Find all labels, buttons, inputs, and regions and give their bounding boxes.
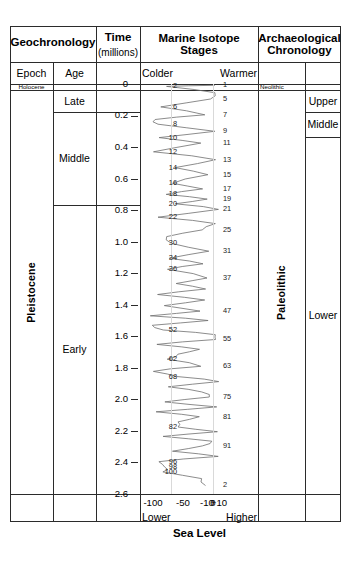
stage-label-colder: 20 xyxy=(143,200,177,207)
epoch-holocene: Holocene xyxy=(10,84,53,91)
subheader-epoch: Epoch xyxy=(10,65,53,83)
stage-label-warmer: 17 xyxy=(223,185,255,192)
stage-label-colder: 10 xyxy=(143,134,177,141)
time-tick-label: 1.4 xyxy=(96,298,128,312)
epoch-pleistocene-label: Pleistocene xyxy=(26,262,37,323)
marine-isotope-stage-chart: Geochronology Time (millions) Marine Iso… xyxy=(0,0,351,562)
sea-level-tick-label: -100 xyxy=(138,497,168,510)
header-time-subtitle: (millions) xyxy=(96,46,140,60)
stage-label-warmer: 31 xyxy=(223,247,255,254)
period-paleolithic-label: Paleolithic xyxy=(276,265,287,320)
stage-label-colder: 36 xyxy=(143,265,177,272)
stage-label-colder: 8 xyxy=(143,120,177,127)
gridline-minus50 xyxy=(171,84,172,494)
rule-sealevel-top xyxy=(10,494,341,495)
time-tick-label: 0.8 xyxy=(96,203,128,217)
time-tick-label: 1.2 xyxy=(96,266,128,280)
time-tick-mark xyxy=(131,494,138,495)
time-tick-mark xyxy=(131,431,138,432)
stage-label-warmer: 13 xyxy=(223,156,255,163)
time-tick-label: 0.4 xyxy=(96,140,128,154)
time-tick-mark xyxy=(131,399,138,400)
period-paleolithic: Paleolithic xyxy=(258,91,305,494)
stage-label-colder: 34 xyxy=(143,254,177,261)
subdivision-lower: Lower xyxy=(305,137,341,494)
stage-label-warmer: 81 xyxy=(223,413,255,420)
stage-label-colder: 14 xyxy=(143,164,177,171)
stage-label-warmer: 7 xyxy=(223,111,255,118)
stage-label-colder: 82 xyxy=(143,423,177,430)
stage-label-warmer: 55 xyxy=(223,335,255,342)
stage-label-warmer: 91 xyxy=(223,442,255,449)
sea-level-axis-title: Sea Level xyxy=(141,526,258,540)
subdivision-upper: Upper xyxy=(305,91,341,112)
subheader-age: Age xyxy=(53,65,96,83)
stage-label-colder: 18 xyxy=(143,190,177,197)
time-tick-mark xyxy=(131,179,138,180)
header-geochronology: Geochronology xyxy=(10,28,96,56)
sea-level-lower-label: Lower xyxy=(142,511,192,525)
stage-label-colder: 52 xyxy=(143,326,177,333)
age-late: Late xyxy=(53,91,96,112)
header-marine-isotope-stages: Marine Isotope Stages xyxy=(140,28,258,60)
stage-label-colder: 62 xyxy=(143,355,177,362)
stage-label-warmer: 19 xyxy=(223,195,255,202)
stage-label-warmer: 15 xyxy=(223,171,255,178)
stage-label-warmer: 5 xyxy=(223,95,255,102)
stage-label-colder: 2 xyxy=(143,82,177,89)
time-tick-label: 2.2 xyxy=(96,424,128,438)
time-tick-mark xyxy=(131,116,138,117)
time-tick-mark xyxy=(131,210,138,211)
stage-label-warmer: 75 xyxy=(223,393,255,400)
time-tick-mark xyxy=(131,84,138,85)
stage-label-colder: 30 xyxy=(143,239,177,246)
stage-label-warmer: 21 xyxy=(223,205,255,212)
gridline-zero xyxy=(213,84,214,494)
time-tick-label: 0.6 xyxy=(96,172,128,186)
time-tick-mark xyxy=(131,368,138,369)
time-tick-label: 1.6 xyxy=(96,329,128,343)
time-tick-mark xyxy=(131,242,138,243)
time-tick-label: 1.8 xyxy=(96,361,128,375)
stage-label-warmer: 11 xyxy=(223,139,255,146)
time-tick-label: 0 xyxy=(96,77,128,91)
header-time: Time xyxy=(96,28,140,46)
header-archaeological-chronology: Archaeological Chronology xyxy=(258,28,341,60)
stage-label-warmer: 1 xyxy=(223,81,255,88)
time-tick-mark xyxy=(131,462,138,463)
label-colder: Colder xyxy=(142,65,190,83)
time-tick-label: 2.4 xyxy=(96,455,128,469)
stage-label-warmer: 2 xyxy=(223,481,255,488)
time-tick-mark xyxy=(131,305,138,306)
period-neolithic: Neolithic xyxy=(258,84,305,91)
stage-label-colder: 68 xyxy=(143,373,177,380)
age-middle: Middle xyxy=(53,112,96,205)
time-tick-mark xyxy=(131,273,138,274)
stage-label-warmer: 9 xyxy=(223,127,255,134)
time-tick-mark xyxy=(131,336,138,337)
stage-label-colder: 16 xyxy=(143,179,177,186)
stage-label-warmer: 37 xyxy=(223,274,255,281)
sea-level-higher-label: Higher xyxy=(206,511,257,525)
time-tick-label: 2.6 xyxy=(96,487,128,501)
stage-label-colder: 22 xyxy=(143,213,177,220)
time-tick-mark xyxy=(131,147,138,148)
time-tick-label: 1.0 xyxy=(96,235,128,249)
age-early: Early xyxy=(53,205,96,494)
stage-label-colder: 12 xyxy=(143,148,177,155)
stage-label-warmer: 47 xyxy=(223,307,255,314)
rule-header-bottom xyxy=(10,62,341,63)
subdivision-middle: Middle xyxy=(305,112,341,137)
stage-label-warmer: 25 xyxy=(223,226,255,233)
epoch-pleistocene: Pleistocene xyxy=(10,91,53,494)
time-tick-label: 2.0 xyxy=(96,392,128,406)
stage-label-warmer: 63 xyxy=(223,362,255,369)
stage-label-colder: 100 xyxy=(143,468,177,475)
time-tick-label: 0.2 xyxy=(96,109,128,123)
stage-label-colder: 6 xyxy=(143,103,177,110)
sea-level-tick-label: +10 xyxy=(204,497,234,510)
